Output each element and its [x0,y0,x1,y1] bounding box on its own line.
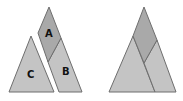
left-figure: A B C [9,7,82,92]
label-a: A [45,28,53,39]
label-c: C [27,69,34,80]
diagram-canvas: A B C [0,0,183,101]
label-b: B [62,66,70,77]
right-figure [109,7,176,92]
